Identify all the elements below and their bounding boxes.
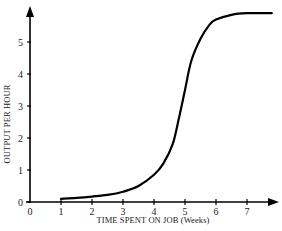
y-tick-label: 4	[18, 69, 23, 80]
x-tick-label: 6	[214, 206, 219, 217]
y-tick-label: 5	[18, 37, 23, 48]
x-tick-label: 7	[245, 206, 250, 217]
x-tick-label: 1	[59, 206, 64, 217]
y-tick-label: 0	[18, 197, 23, 208]
x-axis-title: TIME SPENT ON JOB (Weeks)	[96, 215, 209, 225]
x-tick-label: 2	[90, 206, 95, 217]
x-tick-label: 0	[28, 206, 33, 217]
x-axis-arrow-icon	[268, 198, 279, 206]
y-tick-label: 3	[18, 101, 23, 112]
learning-curve-line	[61, 13, 272, 199]
y-axis-arrow-icon	[26, 6, 34, 17]
y-tick-label: 2	[18, 133, 23, 144]
y-axis-title: OUTPUT PER HOUR	[2, 84, 12, 163]
y-tick-label: 1	[18, 165, 23, 176]
y-ticks: 012345	[18, 37, 31, 208]
chart: 01234567 012345 TIME SPENT ON JOB (Weeks…	[0, 0, 282, 231]
